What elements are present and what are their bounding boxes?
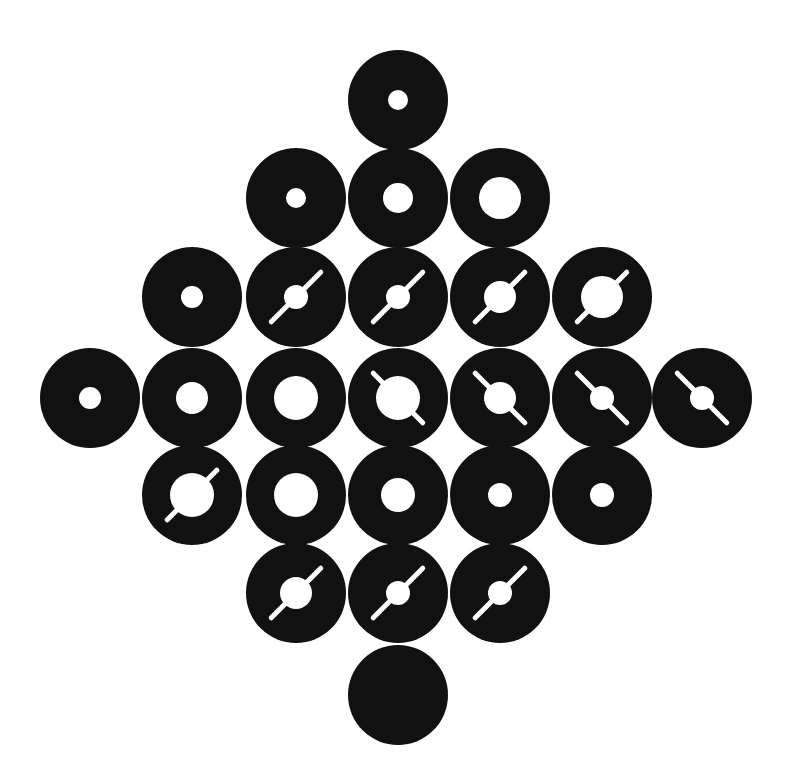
disc-hole [383,183,413,213]
disc [450,348,550,448]
disc-hole [484,382,516,414]
disc [246,348,346,448]
disc [348,348,448,448]
disc-hole [170,473,214,517]
disc-hole [274,473,318,517]
disc [450,445,550,545]
disc-hole [488,581,512,605]
disc [450,148,550,248]
disc-hole [581,276,623,318]
disc-hole [286,188,306,208]
disc-hole [590,483,614,507]
disc [348,543,448,643]
disc-hole [381,478,415,512]
disc [552,247,652,347]
disc [142,348,242,448]
disc-hole [284,285,308,309]
disc-hole [181,286,203,308]
disc-hole [386,581,410,605]
disc [552,445,652,545]
disc-hole [376,376,420,420]
disc [246,445,346,545]
disc [450,247,550,347]
disc [348,148,448,248]
disc-hole [488,483,512,507]
disc-hole [386,285,410,309]
disc-hole [690,386,714,410]
disc-hole [484,281,516,313]
disc-hole [479,177,521,219]
disc [348,445,448,545]
disc [246,148,346,248]
disc [40,348,140,448]
disc [348,247,448,347]
disc [450,543,550,643]
disc-hole [79,387,101,409]
disc-hole [280,577,312,609]
disc-diamond-diagram [0,0,801,784]
disc-hole [274,376,318,420]
disc [348,50,448,150]
disc [142,445,242,545]
disc [348,645,448,745]
disc [552,348,652,448]
disc-body [348,645,448,745]
disc-hole [590,386,614,410]
disc [652,348,752,448]
disc-hole [388,90,408,110]
disc [142,247,242,347]
disc [246,543,346,643]
disc [246,247,346,347]
disc-hole [176,382,208,414]
